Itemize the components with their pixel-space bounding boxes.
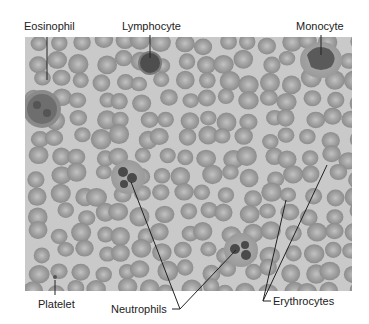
erythrocytes-label: Erythrocytes [273,295,334,307]
erythrocytes-leader-line-2 [263,165,327,301]
leader-lines [0,0,369,324]
eosinophil-label: Eosinophil [24,20,75,32]
platelet-label: Platelet [38,298,75,310]
lymphocyte-label: Lymphocyte [122,20,181,32]
erythrocytes-leader-line-1 [263,200,286,301]
neutrophils-label: Neutrophils [111,303,167,315]
neutrophils-leader-line-2 [180,250,236,309]
neutrophils-leader-line-1 [131,182,180,309]
monocyte-label: Monocyte [296,20,344,32]
